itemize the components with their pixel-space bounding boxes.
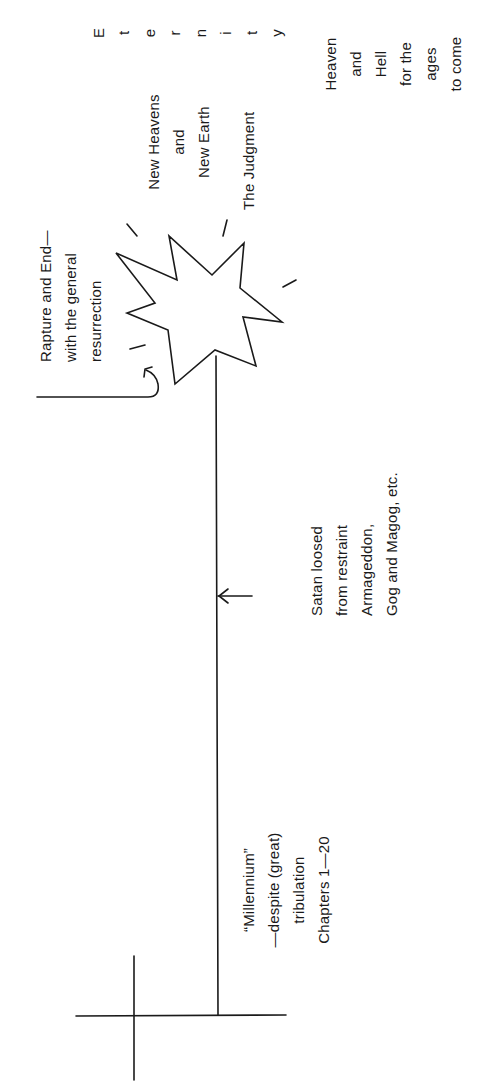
judgment-line-1: The Judgment bbox=[236, 60, 261, 210]
satan-line-3: Armageddon, bbox=[354, 386, 379, 616]
new-heavens-line-1: New Heavens bbox=[141, 72, 166, 212]
rapture-hook bbox=[37, 370, 158, 397]
eternity-label: E t e r n i t y bbox=[95, 22, 285, 44]
rapture-line-2: with the general bbox=[58, 187, 83, 362]
heaven-hell-label: Heaven and Hell for the ages to come bbox=[318, 12, 468, 116]
heaven-hell-line-6: to come bbox=[443, 12, 468, 116]
ray-icon bbox=[223, 220, 227, 236]
eternity-letter: n bbox=[192, 27, 214, 39]
heaven-hell-line-2: and bbox=[343, 12, 368, 116]
heaven-hell-line-5: ages bbox=[418, 12, 443, 116]
eternity-letter: t bbox=[243, 27, 265, 39]
millennium-line-3: tribulation bbox=[286, 790, 311, 990]
ray-icon bbox=[130, 345, 145, 349]
satan-line-2: from restraint bbox=[329, 386, 354, 616]
eternity-letter: e bbox=[141, 27, 163, 39]
judgment-label: The Judgment bbox=[236, 60, 261, 210]
millennium-label: “Millennium” —despite (great) tribulatio… bbox=[236, 790, 336, 990]
satan-line-4: Gog and Magog, etc. bbox=[379, 386, 404, 616]
ray-icon bbox=[283, 280, 296, 287]
timeline bbox=[216, 356, 218, 1015]
eternity-letter: t bbox=[115, 27, 137, 39]
rapture-label: Rapture and End— with the general resurr… bbox=[33, 187, 108, 362]
heaven-hell-line-1: Heaven bbox=[318, 12, 343, 116]
new-heavens-line-3: New Earth bbox=[191, 72, 216, 212]
eternity-letter: i bbox=[217, 27, 239, 39]
eternity-letter: E bbox=[90, 27, 112, 39]
base-line bbox=[76, 1015, 286, 1016]
millennium-line-1: “Millennium” bbox=[236, 790, 261, 990]
millennium-line-2: —despite (great) bbox=[261, 790, 286, 990]
rapture-line-3: resurrection bbox=[83, 187, 108, 362]
eternity-letter: r bbox=[166, 27, 188, 39]
millennium-line-4: Chapters 1—20 bbox=[311, 790, 336, 990]
satan-label: Satan loosed from restraint Armageddon, … bbox=[304, 386, 404, 616]
new-heavens-line-2: and bbox=[166, 72, 191, 212]
satan-line-1: Satan loosed bbox=[304, 386, 329, 616]
heaven-hell-line-4: for the bbox=[393, 12, 418, 116]
rapture-line-1: Rapture and End— bbox=[33, 187, 58, 362]
ray-icon bbox=[127, 224, 137, 236]
eternity-letter: y bbox=[268, 27, 290, 39]
new-heavens-label: New Heavens and New Earth bbox=[141, 72, 216, 212]
heaven-hell-line-3: Hell bbox=[368, 12, 393, 116]
starburst-icon bbox=[116, 236, 282, 384]
